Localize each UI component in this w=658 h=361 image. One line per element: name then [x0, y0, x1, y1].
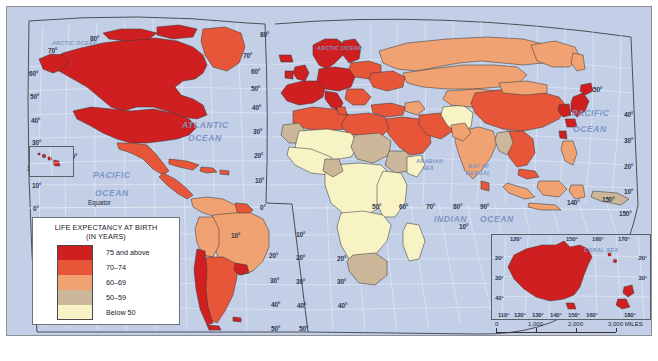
legend-rows: 75 and above70–7460–6950–59Below 50 — [57, 245, 173, 320]
ocean-label: ATLANTIC — [182, 120, 229, 130]
inset-lon-label: 120° — [514, 312, 526, 318]
region-philippines — [561, 141, 577, 165]
graticule-label: 30° — [337, 278, 346, 285]
graticule-label: 10° — [231, 232, 240, 239]
graticule-label: 140° — [567, 199, 580, 206]
region-indonesia-sumatra — [503, 183, 535, 199]
legend-swatch — [57, 245, 93, 260]
graticule-label: 150° — [602, 196, 615, 203]
graticule-label: 40° — [338, 302, 347, 309]
ocean-label: INDIAN — [434, 214, 467, 224]
region-arctic-islands-2 — [157, 25, 197, 39]
scale-number: 1,000 — [528, 321, 543, 327]
legend-label: 60–69 — [106, 278, 126, 287]
legend-row: 50–59 — [57, 290, 173, 305]
inset-lon-label: 150° — [566, 236, 578, 242]
hawaii-inset-box — [29, 146, 74, 177]
legend-swatch — [57, 260, 93, 275]
region-arctic-islands — [103, 29, 157, 41]
legend-label: 75 and above — [106, 248, 150, 257]
region-south-africa — [347, 253, 387, 285]
legend-swatch — [57, 275, 93, 290]
graticule-label: 50° — [30, 93, 39, 100]
graticule-label: 30° — [253, 128, 262, 135]
graticule-label: 10° — [459, 223, 468, 230]
scale-number: 0 — [495, 321, 498, 327]
region-caucasus — [405, 101, 425, 115]
map-text-label: Equator — [88, 199, 111, 206]
region-madagascar — [403, 223, 425, 261]
scale-tick — [536, 328, 537, 332]
graticule-label: 20° — [269, 252, 278, 259]
legend-swatch — [57, 305, 93, 320]
region-greenland — [201, 27, 245, 71]
region-tunisia — [337, 107, 347, 115]
region-finland — [343, 39, 361, 63]
region-kamchatka — [571, 53, 585, 71]
graticule-label: 50° — [271, 325, 280, 332]
graticule-label: 30° — [624, 137, 633, 144]
graticule-label: 40° — [624, 111, 633, 118]
graticule-label: 40° — [271, 301, 280, 308]
graticule-label: 150° — [619, 210, 632, 217]
legend-row: 75 and above — [57, 245, 173, 260]
graticule-label: 30° — [296, 278, 305, 285]
scale-bars: 01,0002,0003,000 MILES 01,0002,0003,000 … — [496, 322, 648, 336]
legend-row: Below 50 — [57, 305, 173, 320]
graticule-label: 30° — [270, 277, 279, 284]
graticule-label: 60° — [29, 70, 38, 77]
australia-inset-geometry — [492, 235, 650, 319]
legend-swatch — [57, 290, 93, 305]
inset-lon-label: 110° — [498, 312, 509, 318]
australia-landmass — [508, 241, 592, 309]
graticule-label: 60° — [399, 203, 408, 210]
region-east-africa — [377, 171, 407, 217]
region-tierra-del-fuego — [207, 325, 221, 330]
australia-inset: 120°150°160°170°110°120°130°140°150°160°… — [491, 234, 651, 320]
legend-title-line2: (IN YEARS) — [39, 232, 173, 241]
legend-label: 50–59 — [106, 293, 126, 302]
inset-lat-label: 40° — [495, 295, 503, 301]
graticule-label: 0° — [33, 205, 39, 212]
graticule-label: 20° — [337, 255, 346, 262]
graticule-label: 50° — [251, 85, 260, 92]
graticule-label: 50° — [593, 86, 602, 93]
ocean-label: PACIFIC — [93, 170, 131, 180]
map-legend: LIFE EXPECTANCY AT BIRTH (IN YEARS) 75 a… — [32, 217, 180, 325]
region-taiwan — [559, 131, 567, 139]
scale-tick — [616, 328, 617, 332]
region-ukraine — [369, 71, 405, 91]
region-canada — [47, 38, 207, 119]
region-iceland — [279, 55, 293, 62]
legend-label: 70–74 — [106, 263, 126, 272]
graticule-label: 90° — [480, 203, 489, 210]
ocean-label: OCEAN — [188, 133, 222, 143]
region-sulawesi — [569, 185, 585, 199]
region-sri-lanka — [481, 181, 489, 191]
scale-number: 3,000 MILES — [608, 321, 643, 327]
graticule-label: 40° — [31, 117, 40, 124]
graticule-label: 20° — [296, 254, 305, 261]
ocean-label: ARABIAN — [416, 158, 443, 164]
graticule-label: 80° — [260, 31, 269, 38]
inset-lon-label: 160° — [592, 236, 604, 242]
graticule-label: 70° — [243, 52, 252, 59]
inset-lon-label: 150° — [568, 312, 580, 318]
world-map-frame: 80°70°60°50°40°30°160°20°10°0°10°20°30°4… — [6, 6, 652, 336]
region-mongolia — [499, 81, 547, 95]
ocean-label: OCEAN — [480, 214, 514, 224]
legend-label: Below 50 — [106, 308, 136, 317]
inset-lat-label: 30° — [495, 275, 503, 281]
legend-title-line1: LIFE EXPECTANCY AT BIRTH — [39, 223, 173, 232]
graticule-label: 0° — [260, 204, 266, 211]
inset-lat-label: 20° — [495, 255, 503, 261]
legend-row: 70–74 — [57, 260, 173, 275]
region-balkans — [345, 89, 371, 105]
region-malaysia — [518, 169, 539, 179]
graticule-label: 60° — [251, 68, 260, 75]
region-falklands — [233, 317, 241, 322]
map-page: 80°70°60°50°40°30°160°20°10°0°10°20°30°4… — [0, 0, 658, 361]
pacific-small-islands — [608, 253, 617, 263]
scale-number: 2,000 — [568, 321, 583, 327]
region-caribbean-hispaniola — [200, 167, 217, 173]
